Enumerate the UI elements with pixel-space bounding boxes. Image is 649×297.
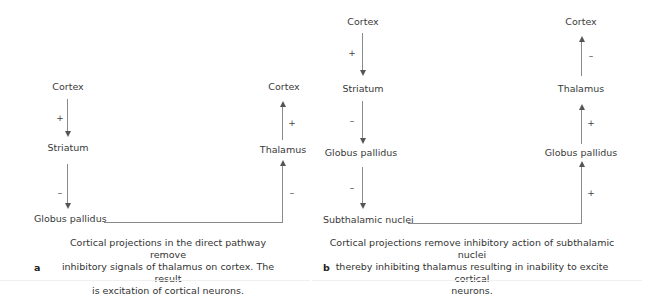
sign-thalamus-cortex: – (589, 51, 594, 61)
node-striatum: Striatum (342, 83, 383, 94)
connector-striatum-gp (67, 164, 68, 206)
connector-gp-horizontal (104, 222, 282, 223)
arrow-up-icon (579, 104, 585, 110)
panel-b-divider (312, 280, 642, 281)
node-striatum: Striatum (47, 142, 88, 153)
connector-gp-stn (362, 167, 363, 207)
caption-a-line-2: inhibitory signals of thalamus on cortex… (58, 261, 278, 285)
connector-striatum-gp (362, 101, 363, 141)
sign-striatum-gp: – (58, 188, 63, 198)
connector-gp-thalamus (581, 108, 582, 144)
connector-cortex-striatum (362, 33, 363, 73)
node-globus-pallidus-left: Globus pallidus (325, 147, 398, 158)
sign-gp-thalamus: – (290, 188, 295, 198)
arrow-down-icon (360, 70, 366, 76)
sign-cortex-striatum: + (56, 113, 64, 123)
connector-cortex-striatum (67, 99, 68, 133)
arrow-down-icon (65, 131, 71, 137)
arrow-up-icon (579, 36, 585, 42)
node-cortex-left: Cortex (52, 81, 83, 92)
caption-b: Cortical projections remove inhibitory a… (322, 237, 622, 297)
caption-b-line-3: neurons. (322, 285, 622, 297)
connector-thalamus-cortex (282, 104, 283, 140)
arrow-down-icon (360, 203, 366, 209)
node-cortex-right: Cortex (268, 81, 299, 92)
node-globus-pallidus-right: Globus pallidus (545, 147, 618, 158)
caption-b-line-2: thereby inhibiting thalamus resulting in… (322, 261, 622, 285)
arrow-up-icon (280, 101, 286, 107)
panel-a-divider (0, 280, 310, 281)
connector-stn-gp (581, 166, 582, 224)
arrow-up-icon (579, 161, 585, 167)
panel-letter-a: a (34, 262, 40, 273)
arrow-down-icon (360, 138, 366, 144)
connector-gp-thalamus (282, 165, 283, 223)
connector-stn-horizontal (408, 223, 582, 224)
node-globus-pallidus: Globus pallidus (34, 213, 107, 224)
caption-b-line-1: Cortical projections remove inhibitory a… (322, 237, 622, 261)
arrow-up-icon (280, 160, 286, 166)
node-thalamus: Thalamus (260, 144, 306, 155)
sign-gp-thalamus: + (587, 118, 595, 128)
node-thalamus: Thalamus (558, 83, 604, 94)
sign-striatum-gp: – (350, 116, 355, 126)
caption-a: Cortical projections in the direct pathw… (58, 237, 278, 297)
node-subthalamic-nuclei: Subthalamic nuclei (323, 214, 414, 225)
sign-cortex-striatum: + (348, 48, 356, 58)
sign-stn-gp: + (587, 188, 595, 198)
node-cortex-right: Cortex (565, 16, 596, 27)
arrow-down-icon (65, 203, 71, 209)
caption-a-line-1: Cortical projections in the direct pathw… (58, 237, 278, 261)
sign-thalamus-cortex: + (288, 118, 296, 128)
caption-a-line-3: is excitation of cortical neurons. (58, 285, 278, 297)
connector-thalamus-cortex (581, 40, 582, 76)
sign-gp-stn: – (350, 183, 355, 193)
node-cortex-left: Cortex (347, 16, 378, 27)
